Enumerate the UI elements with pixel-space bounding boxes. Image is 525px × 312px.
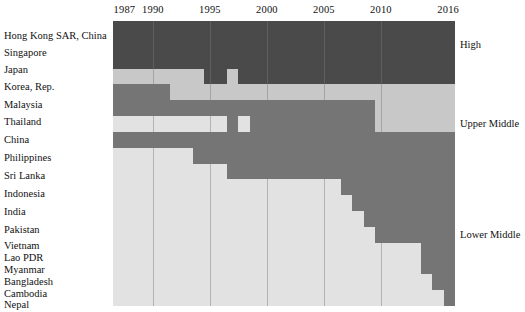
heatmap-cell — [113, 179, 341, 195]
country-label: Sri Lanka — [4, 170, 105, 181]
heatmap-cell — [375, 100, 455, 116]
country-label: Pakistan — [4, 224, 105, 235]
heatmap-cell — [113, 243, 421, 259]
year-tick-1990: 1990 — [142, 4, 164, 16]
heatmap-cell — [113, 84, 170, 100]
country-label: China — [4, 134, 105, 145]
heatmap-cell — [113, 211, 364, 227]
heatmap-cell — [113, 69, 204, 85]
year-tick-1987: 1987 — [113, 4, 135, 16]
country-label: Lao PDR — [4, 252, 105, 263]
heatmap-cell — [364, 211, 455, 227]
year-tick-2016: 2016 — [437, 4, 459, 16]
heatmap-cell — [341, 179, 455, 195]
year-tick-2010: 2010 — [370, 4, 392, 16]
country-label: Bangladesh — [4, 276, 105, 287]
heatmap-cell — [238, 69, 455, 85]
heatmap-cell — [444, 290, 455, 306]
country-label: India — [4, 206, 105, 217]
heatmap-cell — [432, 274, 455, 290]
heatmap-cell — [113, 132, 455, 148]
country-label: Malaysia — [4, 99, 105, 110]
heatmap-cell — [113, 116, 227, 132]
heatmap-cell — [113, 100, 375, 116]
legend-item-high: High — [460, 39, 481, 51]
year-tick-2000: 2000 — [256, 4, 278, 16]
heatmap-cell — [227, 69, 238, 85]
heatmap-cell — [113, 37, 455, 53]
country-label: Vietnam — [4, 240, 105, 251]
country-label: Cambodia — [4, 288, 105, 299]
heatmap-cell — [113, 53, 455, 69]
year-axis: 1987199019952000200520102016 — [0, 0, 525, 20]
heatmap-cell — [170, 84, 455, 100]
country-label: Hong Kong SAR, China — [4, 30, 105, 41]
heatmap-cell — [113, 195, 352, 211]
heatmap-cell — [421, 259, 455, 275]
year-tick-1995: 1995 — [199, 4, 221, 16]
heatmap-cell — [113, 259, 421, 275]
heatmap-cell — [227, 116, 238, 132]
country-label: Philippines — [4, 152, 105, 163]
heatmap-plot — [113, 21, 455, 306]
country-label: Indonesia — [4, 188, 105, 199]
heatmap-cell — [421, 243, 455, 259]
heatmap-cell — [227, 164, 455, 180]
heatmap-cell — [113, 290, 444, 306]
year-tick-2005: 2005 — [313, 4, 335, 16]
figure-root: 1987199019952000200520102016 Hong Kong S… — [0, 0, 525, 312]
legend-item-upper-middle: Upper Middle — [460, 118, 519, 130]
heatmap-cell — [113, 227, 375, 243]
heatmap-cell — [204, 69, 227, 85]
heatmap-cell — [113, 21, 455, 37]
heatmap-cell — [238, 116, 249, 132]
legend-item-lower-middle: Lower Middle — [460, 229, 520, 241]
country-label: Singapore — [4, 47, 105, 58]
country-label-column: Hong Kong SAR, ChinaSingaporeJapanKorea,… — [0, 20, 113, 305]
heatmap-cell — [113, 274, 432, 290]
heatmap-cell — [375, 116, 455, 132]
heatmap-cell — [250, 116, 375, 132]
heatmap-cell — [193, 148, 455, 164]
heatmap-cell — [352, 195, 455, 211]
country-label: Myanmar — [4, 264, 105, 275]
country-label: Nepal — [4, 299, 105, 310]
country-label: Korea, Rep. — [4, 81, 105, 92]
country-label: Thailand — [4, 116, 105, 127]
legend: HighUpper MiddleLower MiddleLow — [460, 20, 525, 310]
country-label: Japan — [4, 64, 105, 75]
heatmap-cell — [113, 164, 227, 180]
heatmap-cell — [375, 227, 455, 243]
heatmap-cell — [113, 148, 193, 164]
